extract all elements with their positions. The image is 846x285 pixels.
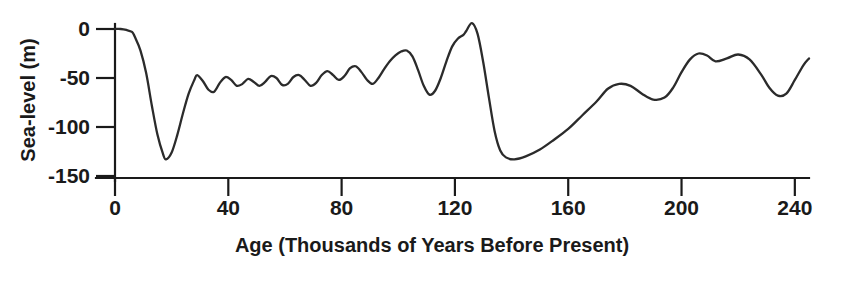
x-tick-label-80: 80 — [330, 196, 353, 219]
chart-canvas: 0-50-100-150 04080120160200240 Sea-level… — [0, 0, 846, 285]
y-tick-label--50: -50 — [60, 66, 90, 89]
y-axis-title: Sea-level (m) — [17, 38, 39, 161]
x-tick-label-40: 40 — [217, 196, 240, 219]
x-axis-tick-labels: 04080120160200240 — [109, 196, 812, 219]
y-tick-label--100: -100 — [48, 115, 90, 138]
y-tick-label-0: 0 — [78, 17, 90, 40]
y-axis-tick-labels: 0-50-100-150 — [48, 17, 90, 187]
x-tick-label-240: 240 — [777, 196, 812, 219]
x-axis-ticks — [115, 178, 795, 196]
x-axis-title: Age (Thousands of Years Before Present) — [235, 234, 629, 256]
sea-level-chart-figure: 0-50-100-150 04080120160200240 Sea-level… — [0, 0, 846, 285]
x-tick-label-0: 0 — [109, 196, 121, 219]
y-tick-label--150: -150 — [48, 164, 90, 187]
x-tick-label-120: 120 — [437, 196, 472, 219]
y-axis-ticks — [96, 29, 115, 176]
x-tick-label-160: 160 — [551, 196, 586, 219]
x-tick-label-200: 200 — [664, 196, 699, 219]
sea-level-curve — [115, 23, 809, 159]
